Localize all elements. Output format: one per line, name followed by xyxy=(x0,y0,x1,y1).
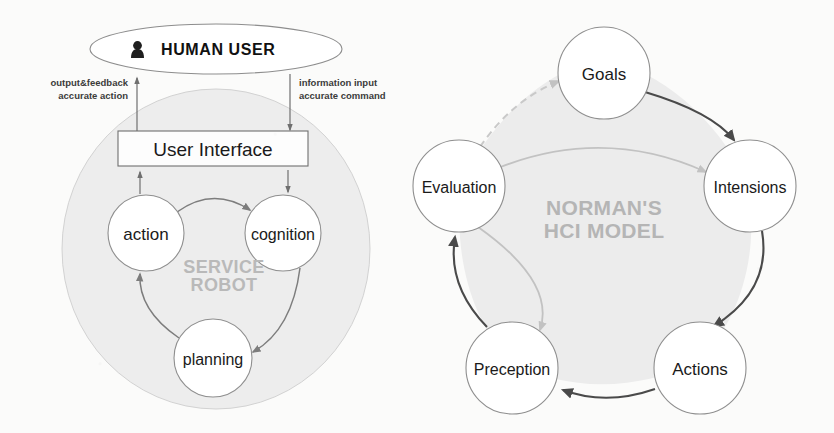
node-goals[interactable]: Goals xyxy=(558,27,650,119)
right-diagram-group: Goals Intensions Actions Preception Eval… xyxy=(413,27,796,414)
service-robot-label-line2: ROBOT xyxy=(191,275,258,295)
diagram-canvas: HUMAN USER output&feedback accurate acti… xyxy=(0,0,834,433)
user-interface-label: User Interface xyxy=(153,139,272,160)
model-title-line1: NORMAN'S xyxy=(546,196,662,219)
node-actions-label: Actions xyxy=(672,360,728,379)
node-intensions[interactable]: Intensions xyxy=(704,140,796,232)
figure-stage: HUMAN USER output&feedback accurate acti… xyxy=(0,0,834,433)
svg-text:information input: information input xyxy=(299,77,378,88)
edge-note-information-input: information input accurate command xyxy=(299,77,386,101)
model-title-line2: HCI MODEL xyxy=(544,219,665,242)
node-preception[interactable]: Preception xyxy=(466,322,558,414)
service-robot-label-line1: SERVICE xyxy=(183,257,265,277)
human-user-label: HUMAN USER xyxy=(161,41,275,58)
svg-text:output&feedback: output&feedback xyxy=(50,77,128,88)
node-intensions-label: Intensions xyxy=(714,179,787,196)
node-evaluation[interactable]: Evaluation xyxy=(413,140,505,232)
node-planning[interactable]: planning xyxy=(174,319,252,397)
node-evaluation-label: Evaluation xyxy=(422,179,497,196)
svg-text:accurate command: accurate command xyxy=(299,90,386,101)
edge-note-output-feedback: output&feedback accurate action xyxy=(50,77,128,101)
node-actions[interactable]: Actions xyxy=(654,322,746,414)
flow-actions-to-preception xyxy=(563,389,655,398)
svg-text:accurate action: accurate action xyxy=(58,90,128,101)
node-preception-label: Preception xyxy=(474,361,551,378)
node-goals-label: Goals xyxy=(582,65,626,84)
node-planning-label: planning xyxy=(183,351,244,368)
node-action-label: action xyxy=(123,225,168,244)
node-action[interactable]: action xyxy=(108,195,184,271)
left-diagram-group: HUMAN USER output&feedback accurate acti… xyxy=(50,24,385,409)
node-cognition-label: cognition xyxy=(251,226,315,243)
